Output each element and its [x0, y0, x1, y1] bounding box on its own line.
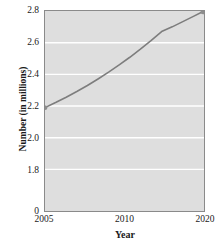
- y-tick-label: 2.2: [0, 101, 44, 111]
- y-tick-label: 1.8: [0, 165, 44, 175]
- x-tick-label: 2005: [30, 214, 58, 225]
- plot-area: [44, 10, 205, 212]
- y-tick-label: 2.8: [0, 5, 44, 15]
- x-tick-label: 2020: [191, 214, 219, 225]
- y-tick-label: 2.0: [0, 133, 44, 143]
- chart-svg: [45, 11, 204, 211]
- y-axis-tick-labels: 2.82.62.42.22.01.80: [0, 0, 44, 247]
- chart-figure: Number (in millions) 2.82.62.42.22.01.80…: [0, 0, 221, 247]
- data-point-marker-end: [201, 11, 204, 14]
- data-curve: [45, 11, 204, 108]
- x-axis-title: Year: [44, 229, 206, 240]
- x-tick-label: 2010: [111, 214, 139, 225]
- y-tick-label: 2.4: [0, 69, 44, 79]
- y-tick-label: 2.6: [0, 37, 44, 47]
